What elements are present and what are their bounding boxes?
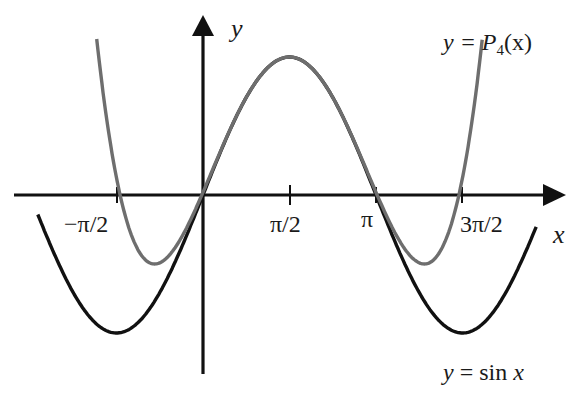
tick-label-pi: π bbox=[361, 206, 373, 232]
p4-annotation-y: y = bbox=[441, 29, 482, 55]
p4-annotation-fn: P bbox=[481, 29, 497, 55]
tick-label-neg-half-pi: −π/2 bbox=[64, 211, 108, 237]
sin-annotation-y: y bbox=[441, 359, 454, 385]
chart-plot-area: −π/2 π/2 π 3π/2 x y y = P4(x) y = sin x bbox=[0, 0, 586, 399]
p4-annotation-arg: (x) bbox=[504, 29, 532, 55]
x-axis-arrow-icon bbox=[543, 184, 566, 206]
y-axis-arrow-icon bbox=[192, 15, 214, 36]
x-axis-label: x bbox=[552, 220, 565, 249]
sin-annotation: y = sin x bbox=[441, 359, 524, 385]
sin-annotation-fn: = sin bbox=[454, 359, 514, 385]
p4-annotation: y = P4(x) bbox=[441, 29, 532, 58]
tick-label-three-half-pi: 3π/2 bbox=[460, 211, 503, 237]
y-axis-label: y bbox=[228, 14, 243, 43]
tick-label-half-pi: π/2 bbox=[270, 211, 301, 237]
sin-annotation-x: x bbox=[512, 359, 524, 385]
